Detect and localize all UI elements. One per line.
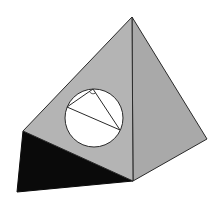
right-face [132,17,207,181]
tetrahedron-diagram [0,0,224,202]
circle-hole [65,89,123,147]
